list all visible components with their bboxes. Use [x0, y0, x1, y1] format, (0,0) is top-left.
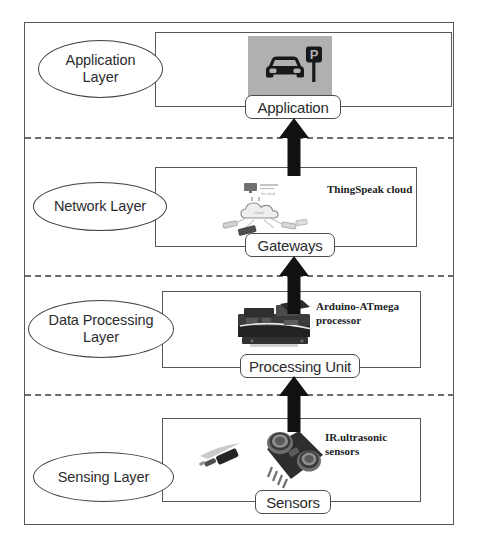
data-processing-node-label: Processing Unit [240, 354, 360, 378]
network-node-label: Gateways [245, 233, 335, 257]
application-screenshot-tile: P [248, 36, 332, 100]
sensing-node-label: Sensors [255, 490, 331, 514]
cloud-network-icon: the cloud cloud [218, 178, 328, 238]
iot-architecture-figure: P Application Layer Application the clou… [0, 0, 479, 553]
cropped-header-text [150, 0, 350, 5]
data-processing-layer-oval-label: Data Processing Layer [49, 312, 154, 346]
arrow-network-to-application [278, 118, 310, 176]
sensing-layer-oval: Sensing Layer [33, 452, 174, 502]
ultrasonic-sensor-icon [255, 425, 329, 491]
separator-application-network [25, 137, 454, 139]
ir-sensor-icon [196, 440, 252, 476]
sensing-layer-oval-label: Sensing Layer [58, 469, 149, 486]
application-layer-oval-label: Application Layer [66, 52, 136, 86]
svg-text:P: P [310, 47, 319, 62]
svg-text:the cloud: the cloud [261, 192, 275, 196]
separator-network-processing [25, 275, 454, 277]
figure-caption-cropped [40, 546, 440, 553]
network-layer-oval-label: Network Layer [54, 198, 146, 215]
arrow-sensing-to-processing [278, 376, 310, 432]
sensing-layer-annotation: IR.ultrasonic sensors [325, 431, 435, 458]
svg-text:cloud: cloud [255, 211, 264, 215]
application-layer-oval: Application Layer [38, 40, 163, 98]
data-processing-layer-oval: Data Processing Layer [28, 300, 174, 358]
data-processing-layer-annotation: Arduino-ATmega processor [316, 300, 426, 327]
application-node-label: Application [245, 95, 341, 119]
network-layer-annotation: ThingSpeak cloud [327, 183, 442, 197]
arrow-processing-to-network [278, 256, 310, 314]
network-layer-oval: Network Layer [33, 182, 167, 231]
separator-processing-sensing [25, 394, 454, 396]
car-parking-sign-icon: P [248, 36, 332, 100]
